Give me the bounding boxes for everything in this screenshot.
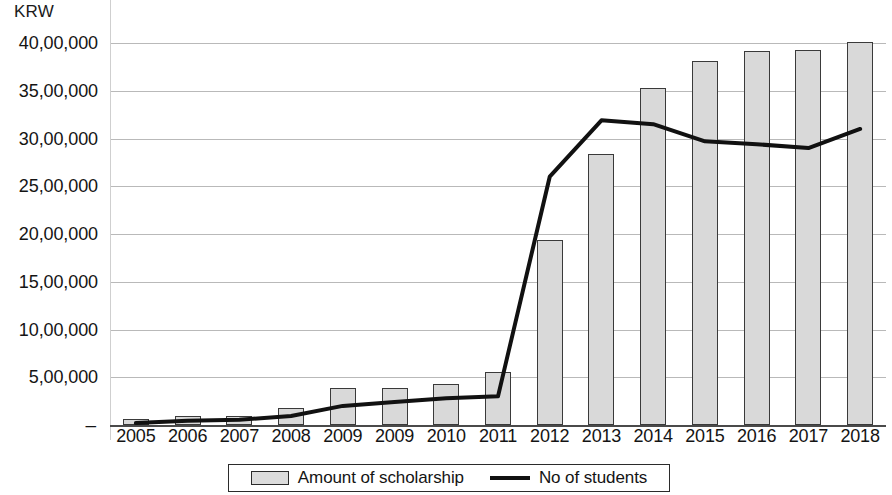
chart-plot-region: 40,00,00035,00,00030,00,00025,00,00020,0… — [0, 0, 892, 440]
x-axis-tick-label: 2016 — [737, 426, 776, 447]
x-axis-tick-label: 2017 — [789, 426, 828, 447]
x-axis-tick-label: 2007 — [220, 426, 259, 447]
chart-legend: Amount of scholarship No of students — [228, 464, 670, 492]
y-axis-tick-label: 15,00,000 — [19, 271, 98, 292]
x-axis-tick-label: 2006 — [168, 426, 207, 447]
y-axis-tick-label: 35,00,000 — [19, 80, 98, 101]
legend-item-label: Amount of scholarship — [298, 468, 464, 488]
x-axis-tick-label: 2012 — [530, 426, 569, 447]
x-axis: 2005200620072008200920092010201120122013… — [110, 426, 886, 458]
y-axis-tick-label: 10,00,000 — [19, 319, 98, 340]
x-axis-tick-label: 2013 — [582, 426, 621, 447]
x-axis-tick-label: 2015 — [685, 426, 724, 447]
line-swatch-icon — [490, 476, 530, 480]
plot-surface — [110, 0, 886, 440]
x-axis-tick-label: 2008 — [271, 426, 310, 447]
bar-swatch-icon — [251, 471, 289, 485]
legend-item-label: No of students — [539, 468, 647, 488]
legend-item-no-of-students: No of students — [490, 468, 647, 488]
x-axis-tick-label: 2011 — [479, 426, 517, 447]
y-axis: 40,00,00035,00,00030,00,00025,00,00020,0… — [0, 0, 104, 440]
legend-item-amount-of-scholarship: Amount of scholarship — [251, 468, 464, 488]
x-axis-tick-label: 2010 — [427, 426, 466, 447]
x-axis-tick-label: 2018 — [841, 426, 880, 447]
y-axis-tick-label: 40,00,000 — [19, 33, 98, 54]
x-axis-tick-label: 2014 — [634, 426, 673, 447]
y-axis-tick-label: 30,00,000 — [19, 128, 98, 149]
y-axis-tick-label: – — [86, 414, 96, 436]
line-path — [136, 120, 860, 423]
y-axis-tick-label: 20,00,000 — [19, 224, 98, 245]
y-axis-tick-label: 25,00,000 — [19, 176, 98, 197]
x-axis-tick-label: 2005 — [116, 426, 155, 447]
y-axis-tick-label: 5,00,000 — [29, 367, 98, 388]
x-axis-tick-label: 2009 — [375, 426, 414, 447]
x-axis-tick-label: 2009 — [323, 426, 362, 447]
line-series — [110, 0, 886, 440]
chart-screenshot: KRW 40,00,00035,00,00030,00,00025,00,000… — [0, 0, 892, 495]
